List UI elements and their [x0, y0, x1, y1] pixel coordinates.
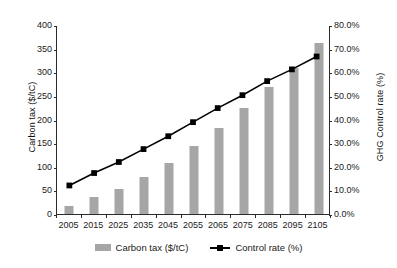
legend-label-carbon-tax: Carbon tax ($/tC): [116, 242, 189, 253]
y-tick-left-label: 350: [37, 44, 52, 54]
y-tick-left-label: 0: [47, 209, 52, 219]
y-tick-left-label: 200: [37, 115, 52, 125]
line-marker: [141, 146, 147, 152]
chart-container: Carbon tax ($/tC) GHG Control rate (%) 0…: [0, 0, 397, 268]
x-tick-label: 2075: [233, 220, 253, 230]
x-tick-mark: [205, 215, 206, 218]
y-tick-right-label: 50.0%: [334, 91, 360, 101]
y-tick-right-label: 10.0%: [334, 185, 360, 195]
y-tick-left-label: 100: [37, 162, 52, 172]
line-marker: [116, 159, 122, 165]
y-tick-right-label: 70.0%: [334, 44, 360, 54]
x-tick-mark: [81, 215, 82, 218]
x-tick-mark: [330, 215, 331, 218]
legend-label-control-rate: Control rate (%): [235, 242, 302, 253]
x-tick-label: 2045: [158, 220, 178, 230]
bar-swatch-icon: [95, 244, 111, 251]
x-axis-ticks: 2005201520252035204520552065207520852095…: [56, 218, 330, 234]
x-tick-mark: [56, 215, 57, 218]
x-tick-label: 2095: [283, 220, 303, 230]
x-tick-mark: [131, 215, 132, 218]
x-tick-label: 2055: [183, 220, 203, 230]
x-tick-mark: [230, 215, 231, 218]
y-axis-right-title: GHG Control rate (%): [375, 37, 385, 197]
y-tick-right-label: 30.0%: [334, 138, 360, 148]
y-tick-left-label: 400: [37, 20, 52, 30]
legend-item-carbon-tax: Carbon tax ($/tC): [95, 242, 189, 253]
line-marker: [91, 170, 97, 176]
y-tick-right-label: 80.0%: [334, 20, 360, 30]
x-tick-mark: [106, 215, 107, 218]
x-tick-label: 2005: [58, 220, 78, 230]
y-tick-right-label: 20.0%: [334, 162, 360, 172]
x-tick-mark: [156, 215, 157, 218]
x-tick-label: 2025: [108, 220, 128, 230]
y-tick-left-label: 50: [42, 185, 52, 195]
x-tick-mark: [305, 215, 306, 218]
legend-item-control-rate: Control rate (%): [210, 242, 302, 253]
x-tick-label: 2035: [133, 220, 153, 230]
line-marker: [66, 183, 72, 189]
chart-legend: Carbon tax ($/tC) Control rate (%): [0, 242, 397, 253]
y-axis-left-title: Carbon tax ($/tC): [27, 37, 37, 197]
y-tick-left-label: 250: [37, 91, 52, 101]
x-tick-label: 2085: [258, 220, 278, 230]
line-marker: [264, 78, 270, 84]
y-tick-left-label: 300: [37, 67, 52, 77]
y-tick-left-label: 150: [37, 138, 52, 148]
x-tick-label: 2015: [83, 220, 103, 230]
y-tick-right-label: 60.0%: [334, 67, 360, 77]
line-marker: [240, 92, 246, 98]
x-tick-label: 2105: [308, 220, 328, 230]
x-tick-label: 2065: [208, 220, 228, 230]
x-tick-mark: [181, 215, 182, 218]
x-tick-mark: [255, 215, 256, 218]
line-marker: [314, 54, 320, 60]
y-tick-right-label: 40.0%: [334, 115, 360, 125]
line-marker: [190, 119, 196, 125]
line-marker: [165, 133, 171, 139]
plot-area: 050100150200250300350400 0.0%10.0%20.0%3…: [56, 26, 330, 215]
line-marker-swatch-icon: [210, 244, 230, 252]
y-tick-right-label: 0.0%: [334, 209, 355, 219]
line-marker: [289, 67, 295, 73]
line-marker: [215, 105, 221, 111]
x-tick-mark: [280, 215, 281, 218]
line-series-control-rate: [57, 26, 329, 214]
